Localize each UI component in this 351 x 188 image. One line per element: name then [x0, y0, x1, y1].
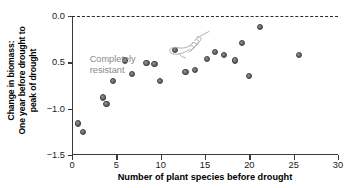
x-tick-label: 10 — [155, 160, 165, 170]
y-tick-mark — [68, 16, 73, 17]
x-tick-mark — [249, 155, 250, 160]
y-axis-line — [72, 16, 73, 155]
data-point — [257, 24, 263, 30]
data-point — [100, 94, 106, 100]
data-point — [232, 57, 238, 63]
x-tick-mark — [338, 155, 339, 160]
x-tick-label: 25 — [288, 160, 298, 170]
y-axis-title: Change in biomass: One year before droug… — [0, 0, 44, 160]
x-tick-mark — [294, 155, 295, 160]
data-point — [221, 52, 227, 58]
x-tick-label: 15 — [200, 160, 210, 170]
x-axis-title: Number of plant species before drought — [72, 172, 338, 182]
x-tick-label: 0 — [69, 160, 74, 170]
x-tick-mark — [161, 155, 162, 160]
data-point — [110, 78, 116, 84]
data-point — [143, 60, 149, 66]
y-axis-title-line-3: peak of drought — [28, 26, 39, 134]
y-tick-label: 0.5 — [52, 57, 65, 67]
data-point — [192, 67, 198, 73]
data-point — [239, 40, 245, 46]
scatter-plot-figure: Change in biomass: One year before droug… — [0, 0, 351, 188]
pointing-hand-icon — [168, 30, 212, 66]
x-tick-mark — [205, 155, 206, 160]
y-tick-mark — [68, 109, 73, 110]
data-point — [75, 120, 81, 126]
data-point — [103, 101, 109, 107]
data-point — [182, 69, 188, 75]
y-axis-title-line-1: Change in biomass: — [6, 26, 17, 134]
annotation-completely-resistant: Completely resistant — [90, 54, 136, 75]
y-axis-title-line-2: One year before drought to — [17, 26, 28, 134]
data-point — [157, 78, 163, 84]
y-tick-mark — [68, 62, 73, 63]
y-tick-label: 0.0 — [52, 11, 65, 21]
data-point — [296, 52, 302, 58]
x-tick-mark — [72, 155, 73, 160]
x-tick-label: 30 — [333, 160, 343, 170]
plot-area: 0.00.5−1.0−1.5 051015202530 — [72, 16, 338, 155]
zero-reference-line — [72, 16, 338, 17]
data-point — [80, 129, 86, 135]
data-point — [246, 73, 252, 79]
annotation-line-1: Completely — [90, 54, 136, 65]
y-tick-label: −1.0 — [47, 104, 65, 114]
x-tick-label: 5 — [114, 160, 119, 170]
x-tick-mark — [116, 155, 117, 160]
data-point — [212, 49, 218, 55]
data-point — [151, 61, 157, 67]
x-tick-label: 20 — [244, 160, 254, 170]
y-tick-label: −1.5 — [47, 150, 65, 160]
annotation-line-2: resistant — [90, 65, 136, 76]
